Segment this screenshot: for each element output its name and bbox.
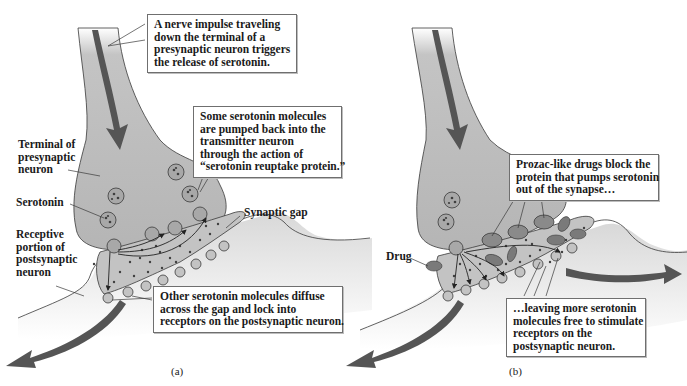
label-serotonin: Serotonin	[16, 196, 64, 209]
callout-prozac-block: Prozac-like drugs block the protein that…	[509, 154, 659, 201]
panel-caption-b: (b)	[509, 365, 522, 377]
label-terminal-presynaptic: Terminal of presynaptic neuron	[18, 138, 75, 176]
label-synaptic-gap: Synaptic gap	[244, 206, 308, 219]
panel-caption-a: (a)	[171, 365, 183, 377]
callout-nerve-impulse: A nerve impulse traveling down the termi…	[147, 14, 297, 73]
callout-diffuse: Other serotonin molecules diffuse across…	[153, 286, 343, 333]
callout-leaving-more: …leaving more serotonin molecules free t…	[506, 298, 646, 357]
callout-reuptake: Some serotonin molecules are pumped back…	[193, 106, 342, 178]
label-drug: Drug	[386, 250, 412, 263]
label-receptive-portion: Receptive portion of postsynaptic neuron	[16, 228, 77, 278]
